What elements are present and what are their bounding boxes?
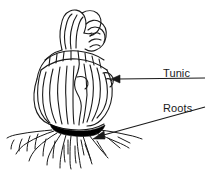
body-left-stria-d: [66, 66, 68, 124]
upper-right-scale-line-c: [90, 45, 100, 47]
label-tunic: Tunic: [163, 67, 190, 79]
root-fiber-5: [60, 135, 66, 168]
upper-right-scale-line-b: [89, 39, 101, 42]
root-branch-n: [81, 140, 84, 155]
root-branch-f: [75, 146, 76, 163]
center-seam: [75, 60, 82, 125]
root-branch-h: [97, 141, 106, 155]
neck-notch: [84, 33, 92, 34]
root-branch-k: [11, 140, 14, 149]
body-left-stria-b: [50, 69, 56, 123]
root-branch-j: [19, 139, 22, 151]
root-branch-d: [53, 141, 55, 158]
upper-right-scale-outline: [85, 20, 106, 51]
root-fiber-7: [77, 136, 81, 168]
body-right-stria-b: [87, 65, 93, 122]
upper-right-scale-ring: [88, 27, 105, 42]
root-fiber-6: [70, 136, 71, 169]
tunic-leader-line: [118, 78, 205, 79]
body-left-stria-c: [58, 67, 62, 124]
body-right-stria-c: [83, 64, 87, 123]
root-branch-l: [118, 137, 130, 143]
body-right-seam: [97, 73, 107, 118]
body-left-seam: [38, 70, 49, 123]
root-branch-a: [35, 134, 38, 149]
root-branch-b: [27, 136, 30, 151]
shoot-curl-outer: [82, 11, 101, 36]
bulb-diagram-figure: Tunic Roots: [0, 0, 215, 192]
bulb-illustration: [0, 0, 215, 192]
root-branch-g: [85, 144, 91, 160]
shoot-tip-inner-right: [76, 17, 83, 48]
body-left-stria-a: [43, 72, 50, 123]
body-left-stria-e: [73, 66, 74, 124]
label-roots: Roots: [163, 102, 192, 114]
bulb-outline-group: [34, 10, 113, 130]
shoulder-tick-g: [92, 56, 94, 65]
shoulder-tick-h: [99, 59, 101, 68]
root-branch-e: [64, 145, 65, 162]
shoot-tip-outline: [60, 10, 86, 50]
